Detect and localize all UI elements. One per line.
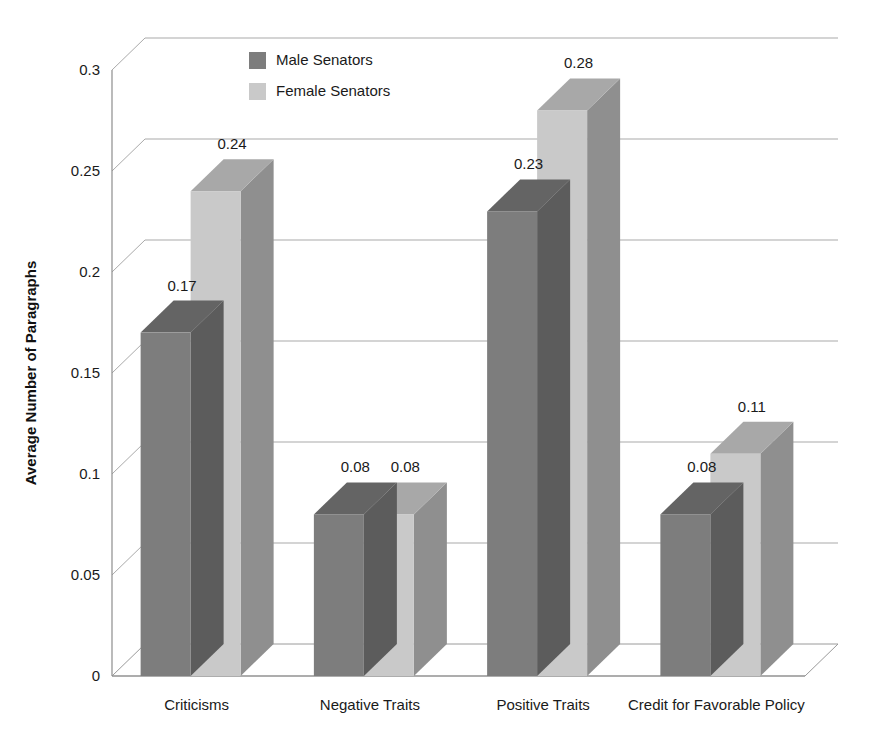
bar-side-face [241,159,274,676]
bar-3d [487,179,570,676]
bar-front-face [660,514,710,676]
x-category-label: Positive Traits [496,696,589,713]
bar-side-face [710,482,743,676]
bar-side-face [414,482,447,676]
bar-front-face [314,514,364,676]
bar-3d [660,482,743,676]
chart-container: 00.050.10.150.20.250.3 0.110.080.280.230… [0,0,871,738]
x-category-label: Credit for Favorable Policy [628,696,805,713]
bar-chart-3d: 00.050.10.150.20.250.3 0.110.080.280.230… [0,0,871,738]
bar-value-label: 0.23 [514,155,543,172]
bar-side-face [191,301,224,676]
y-tick-label: 0.3 [79,61,100,78]
bar-side-face [364,482,397,676]
legend-swatch [249,83,266,100]
legend-label: Female Senators [276,82,390,99]
x-category-label: Negative Traits [320,696,420,713]
bar-value-label: 0.08 [341,458,370,475]
y-tick-label: 0.15 [71,364,100,381]
bar-value-label: 0.17 [168,277,197,294]
bar-side-face [587,78,620,676]
y-tick-label: 0.2 [79,263,100,280]
bar-side-face [760,422,793,676]
y-axis-title: Average Number of Paragraphs [22,261,39,486]
legend-swatch [249,52,266,69]
bar-value-label: 0.08 [391,458,420,475]
bar-value-label: 0.11 [738,398,766,415]
bar-side-face [537,179,570,676]
y-tick-label: 0 [92,667,100,684]
legend-label: Male Senators [276,51,373,68]
bar-3d [314,482,397,676]
y-tick-label: 0.05 [71,566,100,583]
x-category-label: Criticisms [164,696,229,713]
y-tick-label: 0.25 [71,162,100,179]
bar-value-label: 0.24 [218,135,247,152]
bar-front-face [141,333,191,676]
bar-front-face [487,211,537,676]
bar-value-label: 0.28 [564,54,593,71]
bar-3d [141,301,224,676]
bar-value-label: 0.08 [687,458,716,475]
y-tick-label: 0.1 [79,465,100,482]
